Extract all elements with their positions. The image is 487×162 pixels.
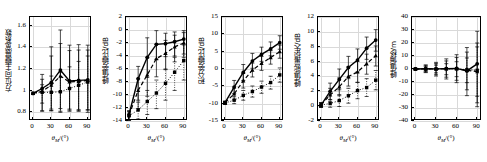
series-layer bbox=[318, 17, 380, 121]
y-tick-mark bbox=[411, 29, 414, 30]
x-tick-mark bbox=[476, 117, 477, 120]
y-tick-mark bbox=[317, 16, 320, 17]
y-tick-label: 1.6 bbox=[4, 21, 26, 29]
y-tick-label: 2 bbox=[292, 86, 314, 94]
x-tick-mark bbox=[435, 117, 436, 120]
x-tick-label: 90 bbox=[269, 122, 289, 130]
y-tick-label: 0 bbox=[196, 64, 218, 72]
data-point-square bbox=[242, 94, 245, 97]
y-tick-label: -10 bbox=[386, 77, 408, 85]
y-tick-label: 10 bbox=[386, 51, 408, 59]
y-tick-label: 6 bbox=[292, 57, 314, 65]
y-tick-label: -4 bbox=[100, 51, 122, 59]
chart-panel-3: 积分旁瓣比/dB0306090-15-10-5051015θM/(°) bbox=[193, 0, 289, 162]
y-tick-label: 0 bbox=[100, 25, 122, 33]
y-tick-mark bbox=[317, 46, 320, 47]
series-dashed-triangle bbox=[31, 44, 90, 111]
y-tick-mark bbox=[29, 111, 32, 112]
y-tick-label: -14 bbox=[100, 116, 122, 124]
x-tick-mark bbox=[146, 117, 147, 120]
data-point-square bbox=[278, 73, 281, 76]
y-axis-label: 方位向主瓣展宽系数 bbox=[2, 0, 16, 120]
x-axis-label: θM/(°) bbox=[30, 134, 90, 143]
x-axis-label-unit: /(°) bbox=[155, 134, 164, 142]
x-tick-mark bbox=[242, 117, 243, 120]
x-tick-label: 90 bbox=[77, 122, 97, 130]
chart-panel-2: 峰值旁瓣比/dB0306090-14-12-10-8-6-4-202θM/(°) bbox=[97, 0, 193, 162]
data-point-square bbox=[434, 67, 437, 70]
data-point-triangle bbox=[182, 41, 186, 45]
y-tick-label: 1.2 bbox=[4, 64, 26, 72]
data-point-square bbox=[260, 85, 263, 88]
data-point-triangle bbox=[374, 53, 378, 57]
data-point-square bbox=[164, 82, 167, 85]
y-tick-mark bbox=[411, 42, 414, 43]
y-tick-mark bbox=[125, 16, 128, 17]
y-tick-label: -2 bbox=[292, 116, 314, 124]
y-tick-label: 0 bbox=[386, 64, 408, 72]
data-point-square bbox=[269, 81, 272, 84]
series-layer bbox=[222, 17, 284, 121]
data-point-circle bbox=[269, 47, 273, 51]
plot-area bbox=[29, 16, 91, 120]
y-tick-label: -10 bbox=[196, 99, 218, 107]
y-tick-label: -20 bbox=[386, 90, 408, 98]
data-point-square bbox=[136, 108, 139, 111]
data-point-square bbox=[356, 89, 359, 92]
x-tick-mark bbox=[87, 117, 88, 120]
x-tick-label: 30 bbox=[136, 122, 156, 130]
y-tick-mark bbox=[29, 68, 32, 69]
y-axis-label-text: 积分旁瓣比/dB bbox=[198, 37, 205, 84]
x-tick-mark bbox=[50, 117, 51, 120]
series-dotted-square bbox=[413, 47, 479, 96]
series-layer bbox=[412, 17, 482, 121]
y-axis-label-text: 峰值偏移/m bbox=[390, 41, 397, 78]
y-tick-mark bbox=[411, 107, 414, 108]
y-tick-mark bbox=[411, 94, 414, 95]
data-point-square bbox=[445, 67, 448, 70]
y-tick-label: 12 bbox=[292, 12, 314, 20]
x-tick-mark bbox=[128, 117, 129, 120]
x-tick-label: 60 bbox=[347, 122, 367, 130]
x-tick-mark bbox=[456, 117, 457, 120]
y-tick-mark bbox=[125, 68, 128, 69]
plot-area bbox=[125, 16, 187, 120]
y-tick-label: -10 bbox=[100, 90, 122, 98]
x-tick-label: 90 bbox=[365, 122, 385, 130]
y-tick-mark bbox=[221, 85, 224, 86]
data-point-square bbox=[374, 78, 377, 81]
y-tick-mark bbox=[317, 61, 320, 62]
figure-panel-row: 方位向主瓣展宽系数03060900.811.21.41.6θM/(°)峰值旁瓣比… bbox=[0, 0, 487, 162]
x-axis-label: θM/(°) bbox=[318, 134, 378, 143]
x-tick-label: 60 bbox=[59, 122, 79, 130]
data-point-square bbox=[465, 68, 468, 71]
x-tick-mark bbox=[69, 117, 70, 120]
plot-area bbox=[221, 16, 283, 120]
y-tick-label: 8 bbox=[292, 42, 314, 50]
x-tick-mark bbox=[357, 117, 358, 120]
x-axis-label-unit: /(°) bbox=[445, 134, 454, 142]
y-tick-mark bbox=[221, 68, 224, 69]
plot-area bbox=[411, 16, 481, 120]
x-tick-mark bbox=[320, 117, 321, 120]
y-tick-label: 4 bbox=[292, 71, 314, 79]
y-tick-label: 30 bbox=[386, 25, 408, 33]
y-tick-mark bbox=[411, 120, 414, 121]
y-tick-mark bbox=[221, 120, 224, 121]
data-point-square bbox=[59, 90, 62, 93]
x-tick-label: 0 bbox=[22, 122, 42, 130]
chart-panel-1: 方位向主瓣展宽系数03060900.811.21.41.6θM/(°) bbox=[0, 0, 97, 162]
y-tick-label: -15 bbox=[196, 116, 218, 124]
data-point-square bbox=[173, 71, 176, 74]
x-tick-mark bbox=[183, 117, 184, 120]
y-tick-mark bbox=[411, 55, 414, 56]
y-tick-mark bbox=[221, 103, 224, 104]
y-tick-mark bbox=[125, 55, 128, 56]
data-point-circle bbox=[250, 59, 254, 63]
x-axis-label-unit: /(°) bbox=[251, 134, 260, 142]
x-tick-mark bbox=[279, 117, 280, 120]
x-tick-mark bbox=[261, 117, 262, 120]
data-point-square bbox=[182, 59, 185, 62]
data-point-square bbox=[347, 94, 350, 97]
y-tick-label: 40 bbox=[386, 12, 408, 20]
